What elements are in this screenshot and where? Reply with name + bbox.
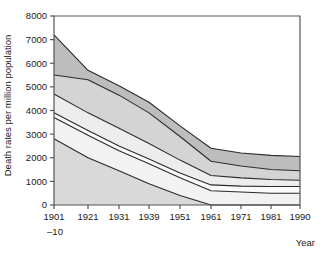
y-tick-label: 0: [42, 199, 47, 210]
y-tick-label: 1000: [26, 176, 47, 187]
x-tick-label: 1939: [138, 211, 159, 222]
y-tick-label: 6000: [26, 58, 47, 69]
x-tick-label: 1901: [43, 211, 64, 222]
y-tick-label: 2000: [26, 152, 47, 163]
y-tick-label: 8000: [26, 10, 47, 21]
x-tick-label: 1981: [260, 211, 281, 222]
chart-figure: 010002000300040005000600070008000 190119…: [0, 0, 323, 254]
chart-canvas: 010002000300040005000600070008000 190119…: [0, 0, 323, 254]
y-tick-label: 4000: [26, 105, 47, 116]
y-axis-ticks: 010002000300040005000600070008000: [26, 10, 54, 210]
x-axis-ticks: 190119211931193919511961197119811990–10: [43, 205, 310, 237]
x-tick-label: 1990: [289, 211, 310, 222]
x-tick-label: 1921: [77, 211, 98, 222]
y-tick-label: 7000: [26, 34, 47, 45]
x-tick-label: 1951: [169, 211, 190, 222]
x-tick-label: 1971: [230, 211, 251, 222]
x-tick-label: 1931: [108, 211, 129, 222]
x-tick-sublabel: –10: [47, 226, 63, 237]
y-tick-label: 5000: [26, 81, 47, 92]
x-tick-label: 1961: [200, 211, 221, 222]
y-tick-label: 3000: [26, 129, 47, 140]
x-axis-label: Year: [296, 237, 315, 248]
